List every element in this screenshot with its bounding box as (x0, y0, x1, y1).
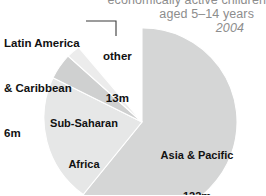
chart-title-line-2: aged 5–14 years (159, 7, 254, 21)
slice-label-sub-saharan-africa: Sub-Saharan Africa 49m (36, 90, 132, 195)
chart-title-year: 2004 (216, 21, 244, 35)
slice-label-asia-pacific: Asia & Pacific 122m (150, 122, 244, 195)
slice-label-asia-name: Asia & Pacific (150, 149, 244, 163)
slice-label-ssa-line-2: Africa (36, 158, 132, 172)
chart-title-line-1: economically active children (108, 0, 266, 7)
pie-chart-figure: economically active children aged 5–14 y… (0, 0, 266, 195)
slice-label-latin-line-1: Latin America (4, 36, 80, 51)
slice-label-other-name: other (103, 49, 132, 63)
slice-label-ssa-line-1: Sub-Saharan (36, 117, 132, 131)
slice-label-asia-value: 122m (150, 190, 244, 196)
